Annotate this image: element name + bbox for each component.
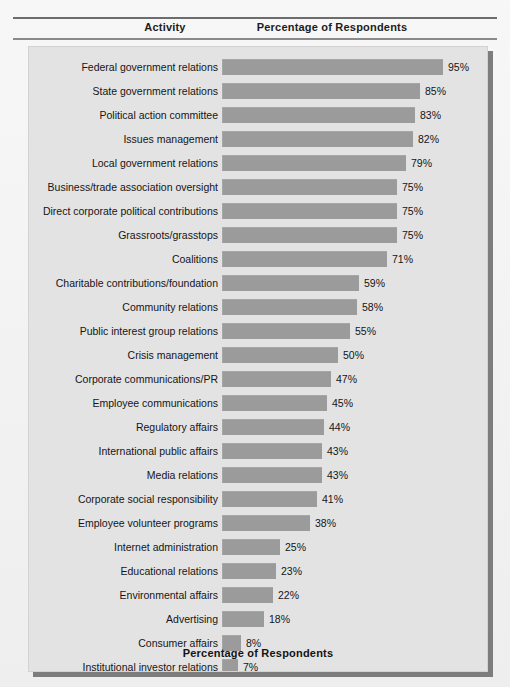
- bar-value-label: 25%: [285, 540, 306, 554]
- axis-caption: Percentage of Respondents: [29, 647, 487, 659]
- bar-row: Regulatory affairs44%: [29, 416, 487, 440]
- bar-value-label: 71%: [392, 252, 413, 266]
- bar-category-label: Internet administration: [114, 540, 218, 554]
- bar-row: State government relations85%: [29, 80, 487, 104]
- bar-value-label: 83%: [420, 108, 441, 122]
- bar: [222, 179, 397, 195]
- bar-row: Direct corporate political contributions…: [29, 200, 487, 224]
- bar-row: Employee communications45%: [29, 392, 487, 416]
- bar-row: Charitable contributions/foundation59%: [29, 272, 487, 296]
- bar-value-label: 45%: [332, 396, 353, 410]
- bar-value-label: 38%: [315, 516, 336, 530]
- bar: [222, 251, 387, 267]
- bar-value-label: 85%: [425, 84, 446, 98]
- bar: [222, 539, 280, 555]
- bar-row: International public affairs43%: [29, 440, 487, 464]
- bar-category-label: Employee communications: [93, 396, 218, 410]
- bar-row: Issues management82%: [29, 128, 487, 152]
- bar-value-label: 75%: [402, 180, 423, 194]
- bar-category-label: Charitable contributions/foundation: [56, 276, 218, 290]
- bar: [222, 227, 397, 243]
- bar-category-label: Crisis management: [128, 348, 218, 362]
- bar-category-label: Local government relations: [92, 156, 218, 170]
- bar-category-label: Issues management: [123, 132, 218, 146]
- bar-category-label: State government relations: [93, 84, 219, 98]
- bar-value-label: 18%: [269, 612, 290, 626]
- bar: [222, 419, 324, 435]
- bar: [222, 299, 357, 315]
- bar-value-label: 95%: [448, 60, 469, 74]
- header-rule-top: [13, 17, 497, 19]
- header-rule-bottom: [13, 38, 497, 40]
- bar-category-label: Environmental affairs: [120, 588, 218, 602]
- bar-category-label: Community relations: [122, 300, 218, 314]
- bar-value-label: 43%: [327, 468, 348, 482]
- bar-value-label: 23%: [281, 564, 302, 578]
- bar-row: Corporate social responsibility41%: [29, 488, 487, 512]
- bar-category-label: Employee volunteer programs: [78, 516, 218, 530]
- bar-category-label: International public affairs: [99, 444, 218, 458]
- chart-panel: Federal government relations95%State gov…: [28, 46, 488, 672]
- bar: [222, 371, 331, 387]
- bar-row: Community relations58%: [29, 296, 487, 320]
- bar: [222, 443, 322, 459]
- bar-value-label: 50%: [343, 348, 364, 362]
- bar-value-label: 75%: [402, 228, 423, 242]
- bar-row: Crisis management50%: [29, 344, 487, 368]
- bar: [222, 659, 238, 672]
- bar-row: Corporate communications/PR47%: [29, 368, 487, 392]
- bar: [222, 131, 413, 147]
- bar-category-label: Institutional investor relations: [83, 660, 218, 672]
- bar-value-label: 79%: [411, 156, 432, 170]
- bar-value-label: 59%: [364, 276, 385, 290]
- bar-category-label: Advertising: [166, 612, 218, 626]
- page-canvas: Activity Percentage of Respondents Feder…: [0, 0, 510, 687]
- bar-row: Coalitions71%: [29, 248, 487, 272]
- bar-value-label: 47%: [336, 372, 357, 386]
- bar-value-label: 82%: [418, 132, 439, 146]
- bar: [222, 275, 359, 291]
- bar-category-label: Grassroots/grasstops: [118, 228, 218, 242]
- bar-row: Business/trade association oversight75%: [29, 176, 487, 200]
- bar: [222, 395, 327, 411]
- bar: [222, 491, 317, 507]
- bar-value-label: 22%: [278, 588, 299, 602]
- bar-row: Public interest group relations55%: [29, 320, 487, 344]
- bar: [222, 107, 415, 123]
- bar-category-label: Educational relations: [121, 564, 218, 578]
- bar-row: Political action committee83%: [29, 104, 487, 128]
- bar-category-label: Business/trade association oversight: [48, 180, 218, 194]
- bar: [222, 515, 310, 531]
- bar-row: Media relations43%: [29, 464, 487, 488]
- bar-category-label: Corporate social responsibility: [78, 492, 218, 506]
- bar-category-label: Regulatory affairs: [136, 420, 218, 434]
- bar-row: Local government relations79%: [29, 152, 487, 176]
- bar-row: Educational relations23%: [29, 560, 487, 584]
- bar-value-label: 55%: [355, 324, 376, 338]
- bar-value-label: 58%: [362, 300, 383, 314]
- bar-category-label: Political action committee: [100, 108, 218, 122]
- bar-value-label: 75%: [402, 204, 423, 218]
- bar-value-label: 43%: [327, 444, 348, 458]
- bar: [222, 323, 350, 339]
- bar-category-label: Corporate communications/PR: [75, 372, 218, 386]
- bar: [222, 611, 264, 627]
- bar: [222, 563, 276, 579]
- bar-row: Advertising18%: [29, 608, 487, 632]
- bar: [222, 83, 420, 99]
- bar-row: Environmental affairs22%: [29, 584, 487, 608]
- bar-value-label: 7%: [243, 660, 258, 672]
- bar-value-label: 41%: [322, 492, 343, 506]
- column-header-percentage: Percentage of Respondents: [221, 21, 443, 33]
- bar: [222, 587, 273, 603]
- bar-rows: Federal government relations95%State gov…: [29, 56, 487, 672]
- bar: [222, 59, 443, 75]
- bar-value-label: 44%: [329, 420, 350, 434]
- bar: [222, 155, 406, 171]
- bar-row: Grassroots/grasstops75%: [29, 224, 487, 248]
- bar-row: Federal government relations95%: [29, 56, 487, 80]
- bar: [222, 347, 338, 363]
- bar-row: Internet administration25%: [29, 536, 487, 560]
- bar: [222, 203, 397, 219]
- bar-row: Employee volunteer programs38%: [29, 512, 487, 536]
